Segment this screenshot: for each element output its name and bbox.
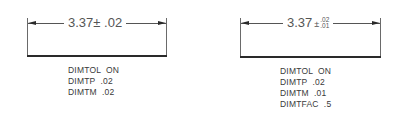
- setting-dimtm: DIMTM .02: [68, 87, 119, 98]
- setting-dimtfac: DIMTFAC .5: [280, 99, 331, 110]
- arrowhead-left-icon: [241, 21, 249, 25]
- lower-tolerance: .01: [320, 23, 329, 29]
- dimension-text: 3.37±.02.01: [283, 16, 333, 31]
- settings-note: DIMTOL ON DIMTP .02 DIMTM .01 DIMTFAC .5: [280, 66, 331, 110]
- setting-dimtol: DIMTOL ON: [280, 66, 331, 77]
- dimension-value: 3.37: [287, 15, 312, 30]
- arrowhead-right-icon: [372, 21, 380, 25]
- tolerance-symbol: ±: [314, 19, 319, 29]
- object-line: [27, 55, 167, 57]
- object-line: [240, 56, 381, 58]
- extension-line-right: [166, 18, 167, 55]
- dimension-text: 3.37± .02: [64, 16, 126, 30]
- extension-line-right: [380, 18, 381, 56]
- setting-dimtp: DIMTP .02: [280, 77, 331, 88]
- figure-deviation-tolerance: 3.37±.02.01 DIMTOL ON DIMTP .02 DIMTM .0…: [196, 0, 393, 121]
- arrowhead-right-icon: [158, 21, 166, 25]
- stacked-tolerance: .02.01: [320, 17, 329, 29]
- setting-dimtp: DIMTP .02: [68, 76, 119, 87]
- settings-note: DIMTOL ON DIMTP .02 DIMTM .02: [68, 65, 119, 98]
- setting-dimtol: DIMTOL ON: [68, 65, 119, 76]
- setting-dimtm: DIMTM .01: [280, 88, 331, 99]
- figure-symmetrical-tolerance: 3.37± .02 DIMTOL ON DIMTP .02 DIMTM .02: [0, 0, 196, 121]
- arrowhead-left-icon: [28, 21, 36, 25]
